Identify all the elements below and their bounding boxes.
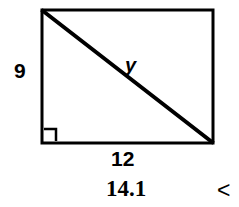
less-than-icon: < <box>217 179 230 202</box>
vertical-leg-label: 9 <box>14 60 26 81</box>
hypotenuse-label: y <box>125 55 136 75</box>
answer-value: 14.1 <box>106 177 146 200</box>
horizontal-leg-label: 12 <box>111 148 134 169</box>
right-angle-icon <box>44 129 56 141</box>
hypotenuse-line <box>43 11 212 142</box>
geometry-figure: 9 y 12 14.1 < <box>0 0 239 207</box>
